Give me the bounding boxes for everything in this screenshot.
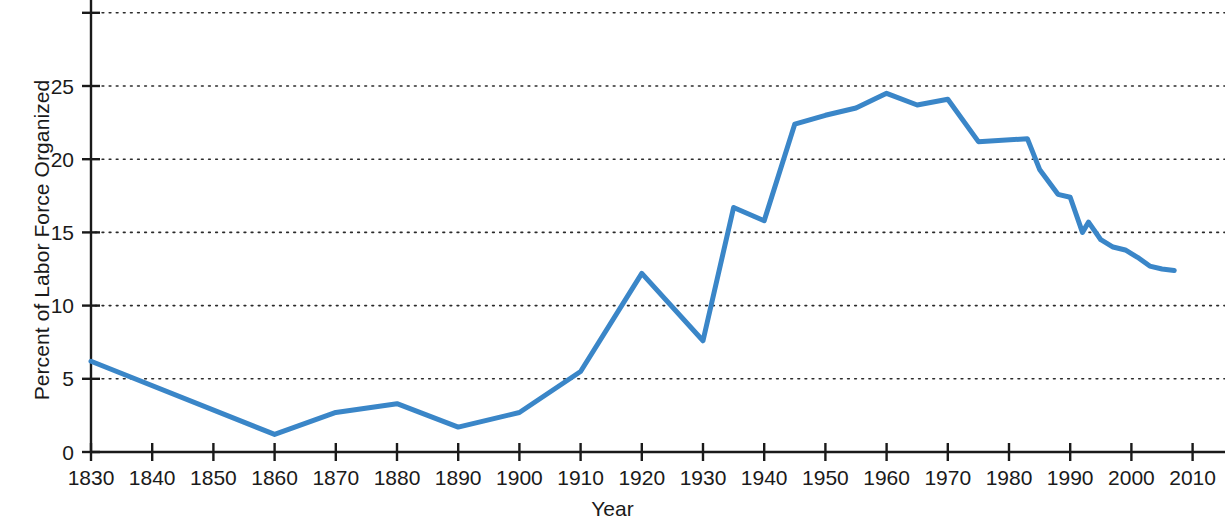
x-axis-tick-label: 1870 (312, 466, 359, 489)
plot-area: 0510152025 18301840185018601870188018901… (0, 0, 1225, 521)
x-axis-tick-label: 1840 (129, 466, 176, 489)
x-axis-tick-label: 1890 (435, 466, 482, 489)
x-axis-tick-label: 1910 (557, 466, 604, 489)
x-axis-tick-label: 1830 (68, 466, 115, 489)
y-axis-tick-label: 15 (51, 221, 74, 244)
x-axis-tick-label: 1950 (802, 466, 849, 489)
x-axis-tick-label: 1960 (863, 466, 910, 489)
y-axis-tick-label: 10 (51, 294, 74, 317)
x-axis-tick-label: 1980 (986, 466, 1033, 489)
x-axis-tick-label: 2010 (1169, 466, 1216, 489)
x-axis-tick-label: 1850 (190, 466, 237, 489)
x-axis-tick-label: 1990 (1047, 466, 1094, 489)
x-axis-label: Year (0, 497, 1225, 521)
x-axis-tick-label: 1930 (680, 466, 727, 489)
x-axis-tick-label: 2000 (1108, 466, 1155, 489)
y-axis-tick-label: 0 (62, 441, 74, 464)
y-axis-ticks-group: 0510152025 (51, 13, 100, 464)
data-series-line (91, 93, 1174, 434)
x-axis-tick-label: 1970 (924, 466, 971, 489)
x-axis-tick-label: 1860 (251, 466, 298, 489)
y-axis-tick-label: 20 (51, 148, 74, 171)
x-axis-ticks-group: 1830184018501860187018801890190019101920… (68, 443, 1216, 489)
x-axis-tick-label: 1880 (374, 466, 421, 489)
x-axis-tick-label: 1900 (496, 466, 543, 489)
gridlines-group (95, 13, 1225, 379)
x-axis-tick-label: 1940 (741, 466, 788, 489)
y-axis-tick-label: 5 (62, 367, 74, 390)
y-axis-tick-label: 25 (51, 75, 74, 98)
line-chart: Percent of Labor Force Organized 0510152… (0, 0, 1225, 521)
x-axis-tick-label: 1920 (618, 466, 665, 489)
